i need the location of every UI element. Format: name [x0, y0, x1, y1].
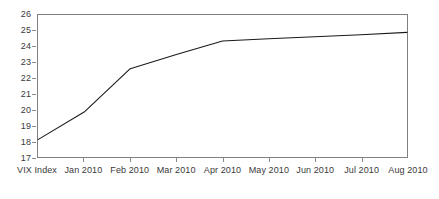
y-axis-tick-labels: 17181920212223242526 — [0, 14, 31, 158]
y-tick-label: 25 — [21, 26, 31, 35]
y-tick-mark — [32, 62, 36, 63]
plot-area — [37, 14, 408, 158]
y-tick-mark — [32, 46, 36, 47]
y-tick-label: 20 — [21, 106, 31, 115]
x-tick-label: VIX Index — [17, 166, 57, 175]
x-tick-label: Jun 2010 — [296, 166, 334, 175]
y-tick-mark — [32, 158, 36, 159]
x-tick-label: Aug 2010 — [388, 166, 427, 175]
x-tick-mark — [176, 158, 177, 162]
y-tick-mark — [32, 126, 36, 127]
x-axis-tick-marks — [37, 158, 408, 163]
x-tick-label: May 2010 — [249, 166, 289, 175]
series-line-svg — [38, 15, 407, 157]
y-tick-label: 19 — [21, 122, 31, 131]
y-tick-label: 26 — [21, 10, 31, 19]
x-tick-mark — [223, 158, 224, 162]
y-tick-label: 22 — [21, 74, 31, 83]
x-axis-tick-labels: VIX IndexJan 2010Feb 2010Mar 2010Apr 201… — [0, 166, 439, 182]
y-tick-mark — [32, 110, 36, 111]
x-tick-mark — [315, 158, 316, 162]
x-tick-label: Feb 2010 — [110, 166, 149, 175]
series-line-vix — [38, 32, 407, 139]
y-tick-label: 24 — [21, 42, 31, 51]
x-tick-label: Jul 2010 — [344, 166, 379, 175]
x-tick-mark — [269, 158, 270, 162]
y-tick-label: 17 — [21, 154, 31, 163]
y-tick-mark — [32, 78, 36, 79]
x-tick-label: Apr 2010 — [204, 166, 241, 175]
x-tick-label: Mar 2010 — [157, 166, 196, 175]
y-tick-label: 21 — [21, 90, 31, 99]
y-tick-mark — [32, 94, 36, 95]
x-tick-mark — [362, 158, 363, 162]
y-tick-mark — [32, 30, 36, 31]
x-tick-mark — [83, 158, 84, 162]
x-tick-label: Jan 2010 — [64, 166, 102, 175]
x-tick-mark — [130, 158, 131, 162]
y-tick-mark — [32, 142, 36, 143]
vix-index-line-chart: 17181920212223242526 VIX IndexJan 2010Fe… — [0, 0, 439, 199]
y-tick-label: 23 — [21, 58, 31, 67]
y-tick-label: 18 — [21, 138, 31, 147]
